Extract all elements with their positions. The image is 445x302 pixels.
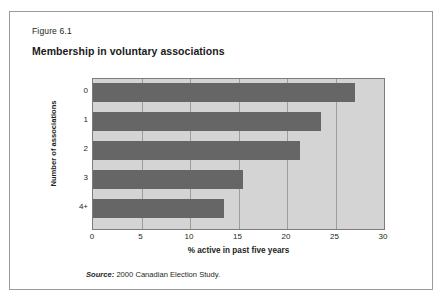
bar bbox=[93, 141, 300, 160]
plot-area bbox=[92, 78, 385, 230]
source-note: Source: 2000 Canadian Election Study. bbox=[86, 270, 220, 279]
x-tick-label: 30 bbox=[368, 232, 398, 241]
x-tick-label: 0 bbox=[77, 232, 107, 241]
x-tick-label: 20 bbox=[271, 232, 301, 241]
y-axis-title: Number of associations bbox=[49, 89, 58, 199]
y-axis-tick-labels: 0 1 2 3 4+ bbox=[62, 78, 88, 230]
bar bbox=[93, 170, 243, 189]
source-text: 2000 Canadian Election Study. bbox=[114, 270, 220, 279]
y-tick-label: 0 bbox=[66, 86, 88, 96]
x-tick-label: 5 bbox=[126, 232, 156, 241]
x-axis-title: % active in past five years bbox=[92, 246, 385, 255]
bar bbox=[93, 112, 321, 131]
y-tick-label: 4+ bbox=[66, 202, 88, 212]
y-tick-label: 2 bbox=[66, 144, 88, 154]
bar-chart: Number of associations 0 1 2 3 4+ 0 5 10… bbox=[22, 66, 422, 256]
x-tick-label: 15 bbox=[223, 232, 253, 241]
x-tick-label: 10 bbox=[174, 232, 204, 241]
figure-number: Figure 6.1 bbox=[32, 26, 72, 36]
y-tick-label: 3 bbox=[66, 173, 88, 183]
figure-title: Membership in voluntary associations bbox=[32, 45, 225, 57]
bar bbox=[93, 199, 224, 218]
y-tick-label: 1 bbox=[66, 115, 88, 125]
x-axis-tick-labels: 0 5 10 15 20 25 30 bbox=[92, 232, 385, 246]
bar bbox=[93, 83, 355, 102]
figure-frame: Figure 6.1 Membership in voluntary assoc… bbox=[9, 11, 433, 290]
x-tick-label: 25 bbox=[320, 232, 350, 241]
source-label: Source: bbox=[86, 270, 114, 279]
